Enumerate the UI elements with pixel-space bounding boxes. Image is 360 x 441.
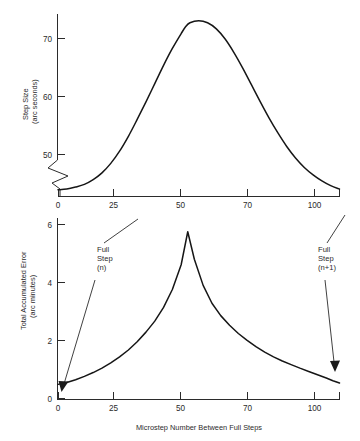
top-x-tick-label-100: 100	[308, 201, 322, 210]
bottom-y-tick-label-0: 0	[47, 395, 52, 404]
bottom-y-tick-label-4: 4	[47, 279, 52, 288]
full-step-n-label-line1: Full	[97, 245, 110, 254]
full-step-n-plus-1-label-line3: (n+1)	[318, 263, 336, 272]
full-step-n-plus-1-label-line2: Step	[318, 254, 334, 263]
top-x-ticks	[114, 189, 315, 197]
step-size-chart: 70 60 50 Step Size (arc seconds) 0 25 50	[21, 14, 340, 210]
top-x-tick-label-50: 50	[176, 201, 186, 210]
top-y-axis-title-line1: Step Size	[21, 88, 30, 120]
full-step-n-plus-1-upper-leader	[327, 215, 345, 243]
full-step-n-leader-line	[64, 280, 95, 384]
top-x-tick-label-25: 25	[109, 201, 119, 210]
top-x-tick-label-0: 0	[56, 201, 61, 210]
top-y-tick-label-60: 60	[43, 93, 53, 102]
bottom-y-tick-label-6: 6	[47, 221, 52, 230]
full-step-n-label-line3: (n)	[97, 263, 107, 272]
full-step-n-label-line2: Step	[97, 254, 113, 263]
top-y-ticks	[58, 39, 65, 155]
full-step-n-plus-1-arrowhead	[330, 361, 340, 373]
top-y-axis-title-line2: (arc seconds)	[30, 79, 39, 124]
bottom-x-tick-label-50: 50	[176, 404, 186, 413]
figure-canvas: 70 60 50 Step Size (arc seconds) 0 25 50	[0, 0, 360, 441]
full-step-n-upper-leader	[104, 219, 138, 243]
step-size-curve	[58, 21, 340, 190]
bottom-y-tick-label-2: 2	[47, 337, 52, 346]
top-y-tick-label-50: 50	[43, 151, 53, 160]
bottom-y-axis-title-line2: (arc minutes)	[28, 275, 37, 318]
bottom-x-axis-title: Microstep Number Between Full Steps	[136, 423, 262, 432]
bottom-x-tick-label-25: 25	[109, 404, 119, 413]
bottom-y-axis-title-line1: Total Accumulated Error	[19, 251, 28, 330]
bottom-x-ticks	[114, 392, 315, 400]
bottom-x-tick-label-70: 70	[243, 404, 253, 413]
bottom-x-tick-label-0: 0	[56, 404, 61, 413]
accumulated-error-chart: 6 4 2 0 Total Accumulated Error (arc min…	[19, 215, 345, 432]
bottom-x-tick-label-100: 100	[308, 404, 322, 413]
full-step-n-plus-1-label-line1: Full	[318, 245, 331, 254]
top-y-tick-label-70: 70	[43, 35, 53, 44]
microstep-figure: 70 60 50 Step Size (arc seconds) 0 25 50	[0, 0, 360, 441]
annotation-full-step-n: Full Step (n)	[59, 219, 139, 392]
bottom-y-ticks	[58, 225, 65, 399]
full-step-n-plus-1-leader-line	[325, 280, 334, 362]
annotation-full-step-n-plus-1: Full Step (n+1)	[318, 215, 345, 372]
top-x-tick-label-70: 70	[243, 201, 253, 210]
full-step-n-arrowhead	[59, 381, 69, 392]
